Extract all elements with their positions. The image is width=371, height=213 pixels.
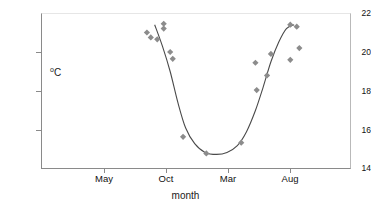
ytick-mark-20 [36,52,41,53]
ytick-label-18: 18 [349,87,371,96]
ytick-mark-18 [36,91,41,92]
x-axis-label: month [0,190,371,201]
xtick-label-aug: Aug [265,174,315,184]
ytick-label-14: 14 [349,164,371,173]
xtick-label-may: May [79,174,129,184]
xtick-label-oct: Oct [141,174,191,184]
y-axis-label: oC [50,66,61,78]
plot-area [41,13,351,169]
ytick-label-20: 20 [349,48,371,57]
temperature-scatter-chart: 22 20 18 16 14 oC May Oct Mar Aug month [0,0,371,213]
unit-letter: C [54,67,61,78]
ytick-label-22: 22 [349,9,371,18]
ytick-mark-16 [36,130,41,131]
xtick-label-mar: Mar [203,174,253,184]
ytick-label-16: 16 [349,126,371,135]
